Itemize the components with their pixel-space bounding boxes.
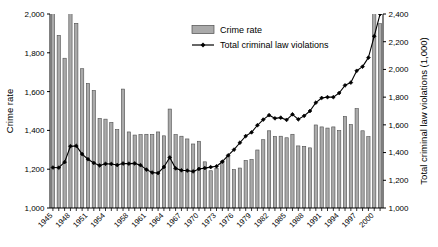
- bar: [338, 131, 341, 208]
- bar: [221, 161, 224, 208]
- bar: [355, 109, 358, 208]
- bar: [57, 35, 60, 208]
- bar: [314, 125, 317, 208]
- right-tick-label: 2,400: [389, 10, 410, 19]
- bar: [227, 156, 230, 208]
- bar: [86, 83, 89, 208]
- line-marker: [349, 81, 353, 85]
- plot-area: [51, 0, 382, 208]
- bar: [197, 141, 200, 208]
- left-axis-ticks: 1,0001,2001,4001,6001,8002,000: [24, 10, 50, 213]
- bar: [121, 89, 124, 208]
- bar: [192, 144, 195, 208]
- bar: [92, 90, 95, 208]
- x-tick-label: 1976: [217, 211, 235, 229]
- x-tick-label: 1951: [71, 211, 89, 229]
- right-tick-label: 1,400: [389, 148, 410, 157]
- left-tick-label: 1,400: [24, 126, 45, 135]
- bar: [244, 160, 247, 208]
- right-tick-label: 2,000: [389, 65, 410, 74]
- x-tick-label: 1973: [200, 211, 218, 229]
- bar: [308, 148, 311, 208]
- left-tick-label: 1,600: [24, 88, 45, 97]
- bar: [262, 140, 265, 208]
- bar: [378, 24, 381, 208]
- bar: [186, 139, 189, 208]
- line-marker: [326, 95, 330, 99]
- bar: [174, 135, 177, 208]
- bar: [332, 127, 335, 208]
- left-tick-label: 1,000: [24, 204, 45, 213]
- x-tick-label: 1961: [129, 211, 147, 229]
- x-tick-label: 1967: [165, 211, 183, 229]
- x-tick-label: 1994: [322, 211, 340, 229]
- bar: [326, 128, 329, 208]
- bar: [63, 58, 66, 208]
- x-tick-label: 1982: [252, 211, 270, 229]
- right-tick-label: 1,600: [389, 121, 410, 130]
- chart-canvas: 1,0001,2001,4001,6001,8002,0001,0001,200…: [0, 0, 438, 247]
- bar: [291, 134, 294, 208]
- x-tick-label: 1958: [112, 211, 130, 229]
- bar: [349, 125, 352, 208]
- bar: [361, 131, 364, 208]
- x-tick-label: 1991: [305, 211, 323, 229]
- bar: [238, 168, 241, 208]
- bar: [343, 116, 346, 208]
- line-marker: [378, 12, 382, 16]
- left-tick-label: 1,800: [24, 49, 45, 58]
- bar: [279, 136, 282, 208]
- bar: [156, 132, 159, 208]
- x-tick-label: 1954: [89, 211, 107, 229]
- right-tick-label: 2,200: [389, 38, 410, 47]
- trend-line: [53, 14, 380, 173]
- x-tick-label: 1979: [235, 211, 253, 229]
- bar: [127, 132, 130, 208]
- bar: [81, 69, 84, 208]
- bar: [367, 137, 370, 208]
- bar: [273, 136, 276, 208]
- legend-label-violations: Total criminal law violations: [220, 40, 329, 50]
- bar: [162, 136, 165, 208]
- x-tick-label: 1948: [54, 211, 72, 229]
- crime-rate-chart: 1,0001,2001,4001,6001,8002,0001,0001,200…: [0, 0, 438, 247]
- legend-marker-diamond: [201, 43, 206, 48]
- x-tick-label: 1970: [182, 211, 200, 229]
- bar: [267, 131, 270, 208]
- bar: [250, 160, 253, 209]
- bar: [256, 150, 259, 208]
- legend-label-crime-rate: Crime rate: [220, 25, 262, 35]
- bar: [303, 146, 306, 208]
- x-tick-label: 2000: [357, 211, 375, 229]
- left-tick-label: 2,000: [24, 10, 45, 19]
- left-tick-label: 1,200: [24, 165, 45, 174]
- x-tick-label: 1945: [36, 211, 54, 229]
- bar: [297, 146, 300, 208]
- right-tick-label: 1,000: [389, 204, 410, 213]
- bar: [320, 127, 323, 208]
- x-tick-label: 1964: [147, 211, 165, 229]
- right-tick-label: 1,200: [389, 176, 410, 185]
- bar: [232, 170, 235, 208]
- x-tick-label: 1988: [287, 211, 305, 229]
- bar: [116, 130, 119, 208]
- right-axis-ticks: 1,0001,2001,4001,6001,8002,0002,2002,400: [383, 10, 409, 213]
- left-axis-title: Crime rate: [4, 89, 15, 133]
- line-marker: [279, 116, 283, 120]
- bar: [75, 23, 78, 208]
- legend-swatch-bar: [192, 26, 214, 34]
- x-tick-label: 1985: [270, 211, 288, 229]
- legend: Crime rateTotal criminal law violations: [192, 25, 329, 50]
- bar-series: [51, 0, 381, 208]
- bar: [209, 171, 212, 208]
- line-marker: [209, 165, 213, 169]
- bar: [69, 14, 72, 208]
- right-axis-title: Total criminal law violations (1,000): [418, 37, 429, 184]
- bar: [215, 168, 218, 208]
- bar: [51, 0, 54, 208]
- bar: [139, 135, 142, 208]
- x-tick-label: 1997: [340, 211, 358, 229]
- right-tick-label: 1,800: [389, 93, 410, 102]
- bar: [285, 138, 288, 208]
- bar: [133, 135, 136, 208]
